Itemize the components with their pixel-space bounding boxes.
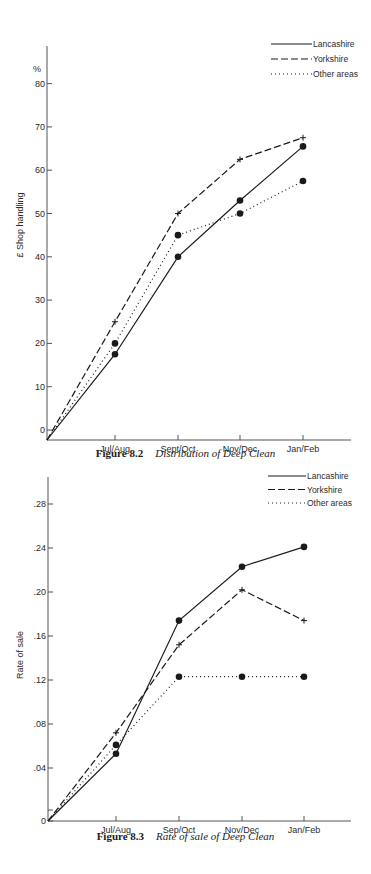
data-point-dot (113, 742, 120, 749)
y-tick-label: 0 (41, 816, 46, 826)
legend-label: Other areas (307, 498, 352, 508)
caption-title: Rate of sale of Deep Clean (156, 830, 274, 842)
data-point-cross (301, 618, 307, 624)
legend-label: Yorkshire (307, 485, 342, 495)
data-point-dot (176, 673, 183, 680)
y-tick-label: .20 (33, 587, 46, 597)
y-tick-label: .28 (33, 499, 46, 509)
data-point-dot (176, 617, 183, 624)
caption-number: Figure 8.3 (97, 830, 144, 842)
y-tick-label: .04 (33, 763, 46, 773)
chart-rate-of-sale: 0.04.08.12.16.20.24.28Jul/AugSep/OctNov/… (0, 0, 371, 874)
data-point-dot (239, 673, 246, 680)
data-point-dot (301, 673, 308, 680)
data-point-dot (113, 750, 120, 757)
y-tick-label: .12 (33, 675, 46, 685)
caption-figure-8-3: Figure 8.3Rate of sale of Deep Clean (0, 830, 371, 842)
data-point-dot (301, 544, 308, 551)
legend-label: Lancashire (307, 471, 349, 481)
figure-8-3: 0.04.08.12.16.20.24.28Jul/AugSep/OctNov/… (0, 0, 371, 874)
y-tick-label: .16 (33, 631, 46, 641)
y-axis-label: Rate of sale (15, 631, 25, 679)
series-line-lancashire (48, 547, 304, 821)
series-line-yorkshire (48, 590, 304, 821)
y-tick-label: .08 (33, 719, 46, 729)
y-tick-label: .24 (33, 543, 46, 553)
series-line-other-areas (48, 677, 304, 821)
data-point-dot (239, 563, 246, 570)
